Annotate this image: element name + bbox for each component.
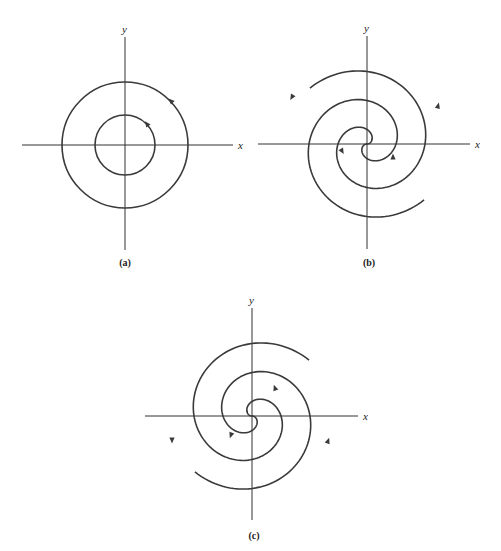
x-axis-label: x [474, 138, 480, 150]
panel-caption: (b) [363, 257, 375, 269]
direction-arrow-icon [271, 384, 278, 391]
spiral-trajectory [195, 372, 311, 489]
spiral-trajectory [193, 343, 309, 460]
direction-arrow-icon [325, 437, 332, 444]
direction-arrow-icon [227, 432, 234, 439]
phase-portrait-figure: xy(a) xy(b) xy(c) [0, 0, 501, 551]
x-axis-label: x [237, 139, 243, 151]
direction-arrow-icon [390, 154, 395, 160]
direction-arrow-icon [435, 102, 442, 109]
spiral-trajectory [308, 100, 424, 217]
y-axis-label: y [363, 22, 369, 34]
x-axis-label: x [362, 410, 368, 422]
y-axis-label: y [248, 294, 254, 306]
y-axis-label: y [121, 23, 127, 35]
direction-arrow-icon [288, 94, 296, 102]
panel-b-unstable-spiral: xy(b) [258, 22, 480, 269]
direction-arrow-icon [338, 148, 346, 156]
panel-c-stable-spiral: xy(c) [145, 294, 368, 542]
direction-arrow-icon [169, 438, 174, 444]
spiral-trajectory [310, 71, 426, 188]
panel-a-center: xy(a) [22, 23, 243, 269]
panel-caption: (a) [119, 257, 131, 269]
panel-caption: (c) [248, 530, 259, 542]
